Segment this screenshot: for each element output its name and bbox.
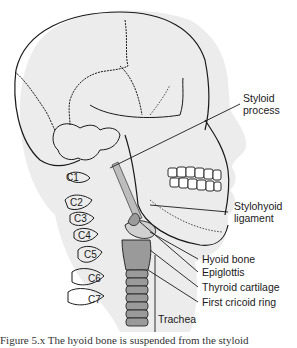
label-c4: C4 bbox=[78, 230, 91, 241]
label-styloid-process: Styloid process bbox=[243, 92, 280, 116]
label-line: process bbox=[243, 104, 280, 116]
trachea-rings bbox=[126, 270, 148, 326]
label-line: Stylohyoid bbox=[234, 200, 282, 212]
label-epiglottis: Epiglottis bbox=[202, 266, 245, 278]
label-c6: C6 bbox=[88, 273, 101, 284]
label-line: Styloid bbox=[243, 92, 280, 104]
label-c1: C1 bbox=[66, 172, 79, 183]
label-c3: C3 bbox=[74, 213, 87, 224]
label-c7: C7 bbox=[88, 294, 101, 305]
label-stylohyoid-ligament: Stylohyoid ligament bbox=[234, 200, 282, 224]
teeth bbox=[168, 167, 221, 191]
label-trachea: Trachea bbox=[158, 313, 196, 325]
label-line: ligament bbox=[234, 212, 282, 224]
figure-caption: Figure 5.x The hyoid bone is suspended f… bbox=[0, 334, 297, 346]
label-c5: C5 bbox=[84, 249, 97, 260]
label-c2: C2 bbox=[70, 197, 83, 208]
label-thyroid-cartilage: Thyroid cartilage bbox=[202, 281, 280, 293]
label-first-cricoid-ring: First cricoid ring bbox=[202, 296, 276, 308]
thyroid-cartilage bbox=[122, 240, 151, 270]
label-hyoid-bone: Hyoid bone bbox=[202, 253, 255, 265]
